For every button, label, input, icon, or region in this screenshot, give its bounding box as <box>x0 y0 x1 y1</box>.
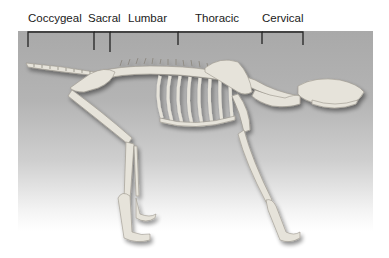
femur <box>68 90 132 144</box>
tail-bones <box>26 63 100 76</box>
tibia <box>124 142 134 200</box>
fibula <box>134 146 139 196</box>
hind-toes <box>136 198 156 221</box>
bracket-sacral <box>94 32 110 52</box>
bracket-cervical <box>262 32 303 45</box>
skeleton-illustration <box>0 0 389 258</box>
region-brackets <box>28 32 303 52</box>
ribcage <box>158 76 232 125</box>
bracket-lumbar <box>110 32 178 45</box>
humerus <box>232 94 250 132</box>
bracket-thoracic <box>178 32 262 44</box>
bracket-coccygeal <box>28 32 94 50</box>
radius-ulna <box>238 130 272 202</box>
fore-paw <box>266 200 300 242</box>
